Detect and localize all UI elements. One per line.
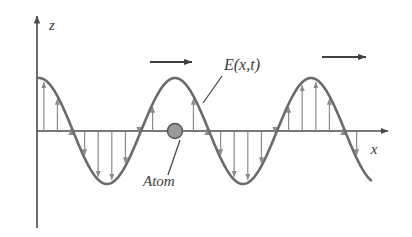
- axes-group: [37, 16, 388, 228]
- field-function-label: E(x,t): [223, 56, 260, 74]
- field-label-leader-line: [203, 76, 222, 103]
- atom-marker: [168, 124, 183, 139]
- wave-atom-figure: z x E(x,t) Atom: [0, 0, 412, 237]
- x-axis-label: x: [370, 141, 378, 157]
- z-axis-label: z: [48, 17, 55, 33]
- atom-label-leader-line: [168, 140, 180, 175]
- atom-label: Atom: [142, 173, 175, 189]
